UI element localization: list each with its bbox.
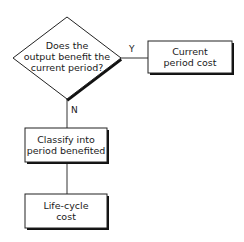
decision-label-line3: current period? — [17, 62, 117, 73]
classify-label-line2: period benefited — [25, 145, 107, 156]
current-label-line1: Current — [148, 46, 232, 57]
decision-label: Does the output benefit the current peri… — [17, 40, 117, 73]
edge-label-yes: Y — [129, 44, 135, 54]
classify-label-line1: Classify into — [25, 134, 107, 145]
lifecycle-label-line2: cost — [25, 211, 107, 222]
decision-label-line1: Does the — [17, 40, 117, 51]
edge-label-no: N — [71, 105, 78, 115]
life-cycle-cost-label: Life-cycle cost — [25, 200, 107, 222]
classify-label: Classify into period benefited — [25, 134, 107, 156]
current-label-line2: period cost — [148, 57, 232, 68]
lifecycle-label-line1: Life-cycle — [25, 200, 107, 211]
current-period-cost-label: Current period cost — [148, 46, 232, 68]
decision-label-line2: output benefit the — [17, 51, 117, 62]
